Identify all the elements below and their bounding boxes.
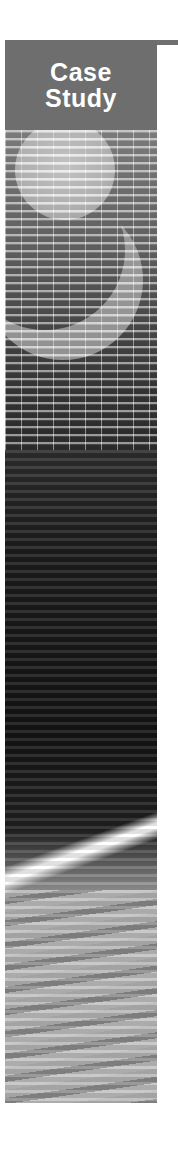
banner-title-box: Case Study bbox=[5, 40, 157, 130]
banner-title-line2: Study bbox=[45, 85, 117, 111]
banner-title-line1: Case bbox=[50, 59, 112, 85]
case-study-banner: Case Study bbox=[5, 40, 157, 1103]
banner-decorative-image bbox=[5, 130, 157, 1103]
stripe-overlay bbox=[5, 130, 157, 1103]
content-panel bbox=[157, 45, 178, 1103]
